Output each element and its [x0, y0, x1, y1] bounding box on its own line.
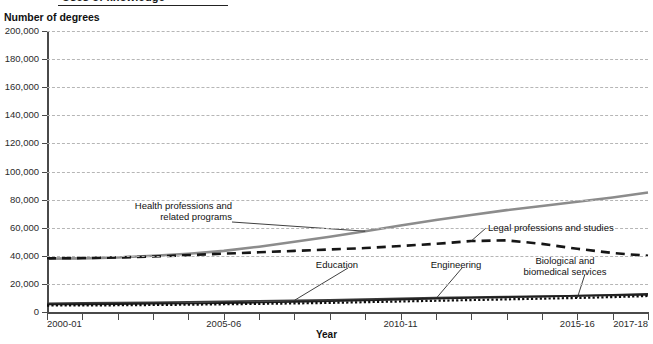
x-axis-tick — [118, 312, 119, 320]
y-axis-tick-label: 140,000 — [0, 109, 39, 120]
x-axis-tick — [471, 312, 472, 320]
annotation-leader — [232, 222, 365, 231]
series-annotation: Health professions and related programs — [0, 200, 232, 222]
y-axis-tick — [42, 172, 47, 173]
x-axis-tick — [259, 312, 260, 320]
y-axis-tick-label: 120,000 — [0, 137, 39, 148]
x-axis-title: Year — [0, 329, 653, 340]
gridline — [47, 172, 648, 173]
title-divider — [58, 5, 228, 6]
series-annotation: Engineering — [396, 259, 516, 270]
y-axis-tick-label: 0 — [0, 306, 39, 317]
y-axis-tick — [42, 31, 47, 32]
x-axis-tick — [507, 312, 508, 320]
x-axis-tick — [330, 312, 331, 320]
x-axis-tick — [294, 312, 295, 320]
y-axis-tick-label: 20,000 — [0, 278, 39, 289]
x-axis-tick-label: 2005-06 — [206, 318, 241, 329]
y-axis-tick — [42, 59, 47, 60]
y-axis-tick — [42, 284, 47, 285]
x-axis-tick-label: 2015-16 — [560, 318, 595, 329]
gridline — [47, 87, 648, 88]
y-axis-tick — [42, 87, 47, 88]
series-annotation: Education — [277, 259, 397, 270]
y-axis-tick-label: 180,000 — [0, 53, 39, 64]
y-axis-tick — [42, 143, 47, 144]
y-axis-tick — [42, 228, 47, 229]
annotation-leader — [577, 274, 585, 298]
gridline — [47, 143, 648, 144]
gridline — [47, 31, 648, 32]
chart-page: Uses of knowledge Number of degrees Year… — [0, 0, 653, 344]
x-axis-tick — [188, 312, 189, 320]
y-axis-tick-label: 160,000 — [0, 81, 39, 92]
gridline — [47, 115, 648, 116]
y-axis-tick-label: 100,000 — [0, 166, 39, 177]
annotation-leader — [471, 228, 486, 241]
x-axis-tick — [542, 312, 543, 320]
x-axis-tick — [648, 312, 649, 320]
x-axis-tick — [436, 312, 437, 320]
series-annotation: Biological and biomedical services — [505, 255, 625, 277]
figure-title: Uses of knowledge — [62, 0, 165, 3]
y-axis-caption: Number of degrees — [4, 11, 100, 23]
x-axis-tick-label: 2017-18 — [613, 318, 648, 329]
y-axis-tick — [42, 256, 47, 257]
y-axis-tick — [42, 115, 47, 116]
x-axis-line — [47, 312, 648, 314]
x-axis-tick — [82, 312, 83, 320]
series-annotation: Legal professions and studies — [488, 222, 614, 233]
x-axis-tick — [365, 312, 366, 320]
y-axis-tick-label: 60,000 — [0, 222, 39, 233]
gridline — [47, 59, 648, 60]
x-axis-tick-label: 2010-11 — [383, 318, 417, 329]
gridline — [47, 284, 648, 285]
x-axis-tick-label: 2000-01 — [47, 318, 82, 329]
y-axis-tick-label: 40,000 — [0, 250, 39, 261]
x-axis-tick — [153, 312, 154, 320]
y-axis-tick-label: 200,000 — [0, 25, 39, 36]
